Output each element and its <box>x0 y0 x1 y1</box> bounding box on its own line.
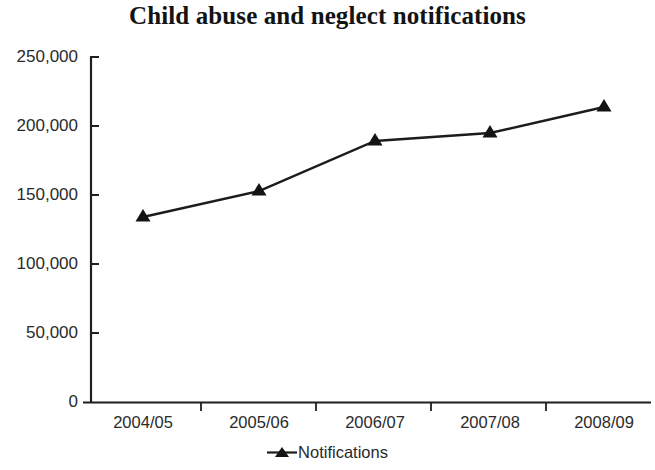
chart-legend: Notifications <box>0 444 655 461</box>
legend-label-notifications: Notifications <box>298 444 388 461</box>
x-tick-label-2008-09: 2008/09 <box>544 413 655 432</box>
axis-lines <box>83 56 651 403</box>
series-notifications <box>136 99 612 222</box>
plot-area <box>0 0 655 470</box>
data-point-2006-07 <box>368 133 383 146</box>
chart-container: Child abuse and neglect notifications 25… <box>0 0 655 470</box>
legend-marker-triangle-icon <box>267 445 297 459</box>
x-tick-label-2004-05: 2004/05 <box>83 413 203 432</box>
x-tick-label-2006-07: 2006/07 <box>315 413 435 432</box>
x-tick-label-2005-06: 2005/06 <box>199 413 319 432</box>
data-point-2008-09 <box>597 99 612 112</box>
y-axis-ticks <box>91 57 99 333</box>
x-tick-label-2007-08: 2007/08 <box>430 413 550 432</box>
